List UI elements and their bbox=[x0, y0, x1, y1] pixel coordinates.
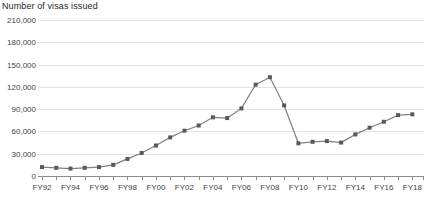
data-point-marker bbox=[254, 83, 258, 87]
data-point-marker bbox=[410, 112, 414, 116]
data-point-marker bbox=[225, 116, 229, 120]
data-point-marker bbox=[211, 115, 215, 119]
data-point-marker bbox=[296, 141, 300, 145]
data-point-marker bbox=[339, 141, 343, 145]
data-point-marker bbox=[40, 165, 44, 169]
visas-issued-line-chart: Number of visas issued 210,000180,000150… bbox=[0, 0, 429, 201]
data-point-marker bbox=[68, 167, 72, 171]
data-point-marker bbox=[396, 113, 400, 117]
data-point-marker bbox=[97, 165, 101, 169]
data-point-marker bbox=[182, 129, 186, 133]
series-line-visas-issued bbox=[42, 77, 412, 168]
data-point-marker bbox=[54, 166, 58, 170]
data-point-marker bbox=[282, 103, 286, 107]
data-point-marker bbox=[353, 132, 357, 136]
data-point-marker bbox=[239, 106, 243, 110]
series-layer bbox=[0, 0, 429, 201]
data-point-marker bbox=[168, 135, 172, 139]
data-point-marker bbox=[382, 120, 386, 124]
data-point-marker bbox=[325, 139, 329, 143]
series-markers bbox=[40, 75, 414, 170]
data-point-marker bbox=[154, 144, 158, 148]
data-point-marker bbox=[197, 123, 201, 127]
data-point-marker bbox=[268, 75, 272, 79]
data-point-marker bbox=[111, 163, 115, 167]
data-point-marker bbox=[83, 166, 87, 170]
data-point-marker bbox=[311, 140, 315, 144]
data-point-marker bbox=[140, 151, 144, 155]
data-point-marker bbox=[125, 157, 129, 161]
data-point-marker bbox=[368, 126, 372, 130]
